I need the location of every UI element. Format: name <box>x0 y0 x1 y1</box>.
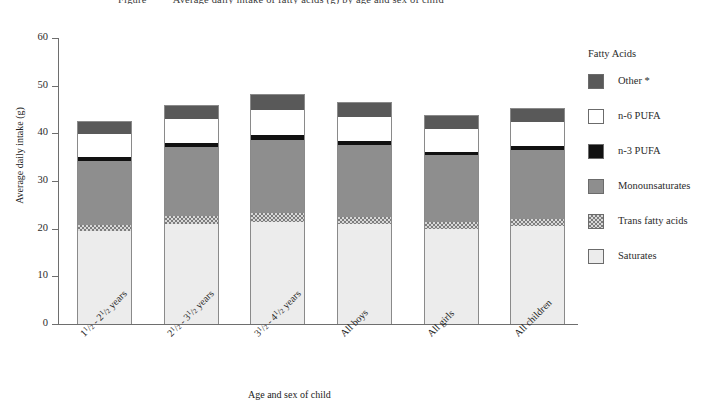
stacked-bar[interactable] <box>424 115 479 324</box>
figure-title: FigureAverage daily intake of fatty acid… <box>118 0 444 4</box>
bar-segment-monounsaturates <box>424 155 479 222</box>
legend-swatch-solid-light-gray <box>588 249 604 264</box>
plot-area <box>58 38 578 324</box>
x-axis-line <box>58 324 578 325</box>
bar-segment-trans-fatty-acids <box>250 213 305 223</box>
bar-segment-monounsaturates <box>337 145 392 217</box>
bar-segment-trans-fatty-acids <box>337 217 392 224</box>
y-axis-tick-label: 10 <box>0 269 48 280</box>
bar-segment-other <box>424 115 479 129</box>
legend-swatch-solid-white <box>588 109 604 124</box>
bar-segment-n-6-pufa <box>77 134 132 156</box>
bar-segment-n-6-pufa <box>424 129 479 152</box>
bar-segment-n-6-pufa <box>250 110 305 136</box>
y-axis-tick-label: 0 <box>0 317 48 328</box>
legend-label: Trans fatty acids <box>618 215 688 226</box>
figure-title-text: Average daily intake of fatty acids (g) … <box>173 0 444 4</box>
bar-segment-other <box>164 105 219 119</box>
bar-segment-monounsaturates <box>250 140 305 213</box>
x-axis-title: Age and sex of child <box>248 389 331 400</box>
stacked-bar[interactable] <box>510 108 565 324</box>
bar-segment-other <box>510 108 565 122</box>
legend-swatch-checkered <box>588 214 604 229</box>
legend-swatch-solid-mid-gray <box>588 179 604 194</box>
legend-label: Monounsaturates <box>618 180 690 191</box>
bar-segment-monounsaturates <box>510 150 565 219</box>
y-axis-tick <box>52 324 58 325</box>
bar-segment-monounsaturates <box>77 161 132 225</box>
legend-label: n-3 PUFA <box>618 145 661 156</box>
bar-segment-trans-fatty-acids <box>424 222 479 229</box>
bar-segment-other <box>77 121 132 134</box>
legend-swatch-solid-black <box>588 144 604 159</box>
legend-label: Other * <box>618 75 650 86</box>
figure-title-prefix: Figure <box>118 0 147 4</box>
legend-title: Fatty Acids <box>588 48 636 59</box>
stacked-bar[interactable] <box>337 102 392 324</box>
bar-segment-n-6-pufa <box>337 117 392 142</box>
bar-segment-monounsaturates <box>164 147 219 217</box>
y-axis-title: Average daily intake (g) <box>14 41 25 271</box>
bar-segment-n-6-pufa <box>164 119 219 143</box>
bar-segment-other <box>337 102 392 116</box>
bar-segment-trans-fatty-acids <box>164 216 219 224</box>
bar-segment-other <box>250 94 305 109</box>
figure-container: FigureAverage daily intake of fatty acid… <box>0 0 706 411</box>
legend-label: Saturates <box>618 250 657 261</box>
bar-segment-trans-fatty-acids <box>510 219 565 226</box>
bar-segment-n-6-pufa <box>510 122 565 146</box>
legend-swatch-solid-dark-gray <box>588 74 604 89</box>
legend-label: n-6 PUFA <box>618 110 661 121</box>
